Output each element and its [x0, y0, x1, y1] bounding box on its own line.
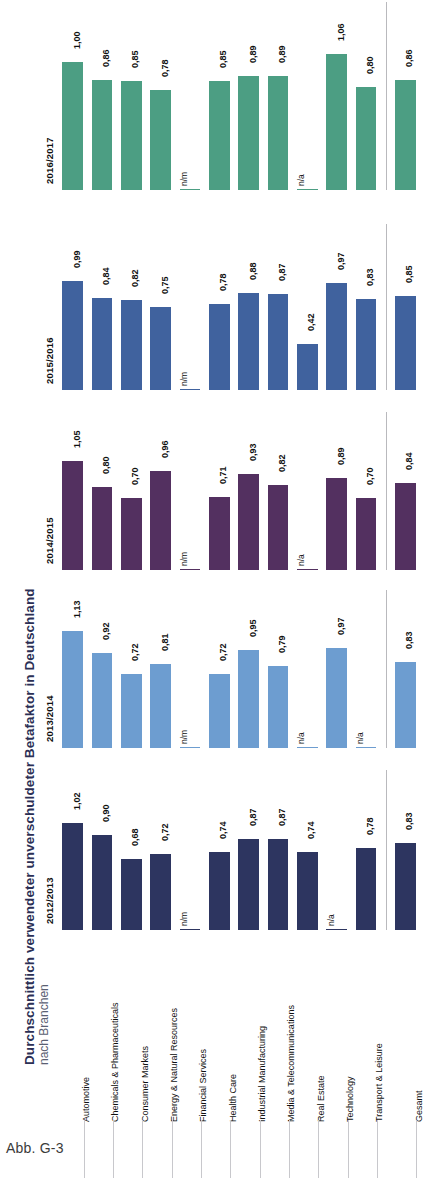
bar-slot: 1,06	[322, 2, 351, 190]
bar[interactable]	[209, 304, 230, 390]
missing-value-stub[interactable]	[326, 929, 347, 931]
bar[interactable]	[92, 80, 113, 190]
bar[interactable]	[150, 307, 171, 390]
bar-slot: n/m	[175, 770, 204, 930]
missing-value-label: n/m	[179, 912, 189, 926]
missing-value-stub[interactable]	[356, 747, 377, 749]
category-label-real-estate: Real Estate	[316, 1075, 326, 1122]
bar[interactable]	[150, 854, 171, 930]
bar[interactable]	[238, 76, 259, 190]
bar[interactable]	[121, 300, 142, 390]
bar[interactable]	[326, 283, 347, 390]
bar-value-label: 0,70	[130, 467, 140, 485]
bar[interactable]	[209, 852, 230, 930]
missing-value-stub[interactable]	[297, 747, 318, 749]
bar[interactable]	[238, 474, 259, 570]
bar-value-label: 0,83	[365, 268, 375, 286]
bar[interactable]	[121, 674, 142, 748]
bar[interactable]	[326, 478, 347, 570]
bar[interactable]	[268, 76, 289, 190]
bar[interactable]	[356, 299, 377, 390]
bar-slot: 0,89	[234, 2, 263, 190]
series-label: 2015/2016	[44, 337, 55, 384]
bar[interactable]	[238, 650, 259, 748]
bar-slot: 0,86	[87, 2, 116, 190]
bar-value-label: 0,89	[336, 447, 346, 465]
bar-slot: n/m	[175, 224, 204, 390]
bar[interactable]	[356, 87, 377, 190]
series-band-2015-2016: 2015/20160,990,840,820,75n/m0,780,880,87…	[40, 224, 420, 390]
bar[interactable]	[209, 81, 230, 190]
bar-slot: 0,85	[391, 224, 420, 390]
bar[interactable]	[92, 298, 113, 390]
missing-value-stub[interactable]	[180, 747, 201, 749]
bar[interactable]	[268, 294, 289, 390]
bar[interactable]	[62, 461, 83, 570]
bar[interactable]	[121, 498, 142, 570]
bar-value-label: 0,72	[218, 643, 228, 661]
missing-value-stub[interactable]	[297, 189, 318, 191]
category-label-industrial-manufacturing: Industrial Manufacturing	[257, 1026, 267, 1122]
category-label-transport-leisure: Transport & Leisure	[374, 1043, 384, 1122]
bar-slot: 0,93	[234, 412, 263, 570]
bar-slot: n/m	[175, 590, 204, 748]
bar[interactable]	[268, 839, 289, 930]
bar[interactable]	[395, 296, 416, 390]
missing-value-label: n/m	[179, 552, 189, 566]
bar[interactable]	[395, 662, 416, 748]
bar[interactable]	[326, 54, 347, 190]
bar[interactable]	[356, 848, 377, 930]
gesamt-separator	[386, 770, 387, 930]
bar[interactable]	[268, 485, 289, 570]
missing-value-stub[interactable]	[180, 389, 201, 391]
bar-value-label: 0,82	[130, 269, 140, 287]
bar[interactable]	[150, 664, 171, 748]
bar[interactable]	[268, 666, 289, 748]
bar[interactable]	[62, 631, 83, 748]
bar-value-label: 0,90	[101, 804, 111, 822]
missing-value-stub[interactable]	[180, 569, 201, 571]
bar[interactable]	[62, 281, 83, 390]
bar-slot: 0,72	[117, 590, 146, 748]
bar-value-label: 1,06	[336, 23, 346, 41]
bar[interactable]	[121, 81, 142, 190]
bar-slot: 0,97	[322, 224, 351, 390]
bar[interactable]	[92, 487, 113, 570]
bar[interactable]	[395, 80, 416, 190]
bar[interactable]	[326, 648, 347, 748]
bar-slot: 0,82	[117, 224, 146, 390]
bar-slot: 0,83	[391, 590, 420, 748]
bar[interactable]	[62, 62, 83, 190]
missing-value-stub[interactable]	[180, 189, 201, 191]
category-tick	[172, 1120, 173, 1178]
bar[interactable]	[92, 835, 113, 930]
bar[interactable]	[238, 839, 259, 930]
bar[interactable]	[297, 344, 318, 390]
bar-value-label: 0,78	[218, 273, 228, 291]
bar[interactable]	[395, 843, 416, 930]
bar[interactable]	[150, 471, 171, 570]
series-band-2013-2014: 2013/20141,130,920,720,81n/m0,720,950,79…	[40, 590, 420, 748]
bar-value-label: 0,86	[404, 49, 414, 67]
bar-slot: 0,78	[205, 224, 234, 390]
bar-value-label: 0,96	[160, 440, 170, 458]
bar[interactable]	[356, 498, 377, 570]
bar[interactable]	[150, 90, 171, 190]
bar-slot: 0,97	[322, 590, 351, 748]
series-label: 2016/2017	[44, 137, 55, 184]
missing-value-stub[interactable]	[297, 569, 318, 571]
bar[interactable]	[92, 653, 113, 748]
bar-value-label: 1,13	[72, 600, 82, 618]
bar[interactable]	[297, 852, 318, 930]
bar[interactable]	[395, 483, 416, 570]
bar-value-label: 0,80	[365, 56, 375, 74]
bar[interactable]	[62, 823, 83, 930]
bar[interactable]	[121, 859, 142, 930]
bar[interactable]	[209, 497, 230, 570]
bar-value-label: 0,92	[101, 622, 111, 640]
bar[interactable]	[209, 674, 230, 748]
missing-value-stub[interactable]	[180, 929, 201, 931]
bar[interactable]	[238, 293, 259, 390]
bar-value-label: 0,83	[404, 631, 414, 649]
category-label-chemicals-pharmaceuticals: Chemicals & Pharmaceuticals	[110, 1002, 120, 1122]
